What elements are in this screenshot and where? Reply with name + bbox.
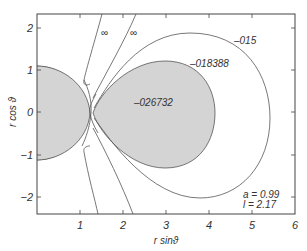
label-018388: –018388 — [189, 58, 229, 69]
label-026732: –026732 — [133, 97, 173, 108]
x-tick-4: 4 — [206, 219, 212, 231]
lobe-026732-fill — [93, 61, 215, 168]
y-tick-0: 0 — [27, 106, 34, 118]
y-axis-title: r cos ϑ — [7, 97, 18, 127]
x-tick-5: 5 — [249, 219, 256, 231]
x-tick-6: 6 — [292, 219, 299, 231]
y-tick-m2: −2 — [20, 191, 33, 203]
param-l: l = 2.17 — [243, 199, 277, 210]
x-tick-2: 2 — [119, 219, 126, 231]
contour-inf-1-lower — [84, 146, 98, 214]
y-tick-m1: −1 — [20, 149, 33, 161]
x-tick-3: 3 — [163, 219, 170, 231]
y-tick-1: 1 — [27, 64, 33, 76]
y-tick-2: 2 — [26, 22, 33, 34]
x-tick-1: 1 — [77, 219, 83, 231]
label-inf-1: ∞ — [101, 27, 108, 38]
label-inf-2: ∞ — [130, 27, 137, 38]
x-axis-title: r sinϑ — [154, 235, 179, 246]
contour-inf-1 — [84, 14, 102, 85]
label-015: –015 — [233, 35, 257, 46]
contour-chart: 1 2 3 4 5 6 2 1 0 −1 −2 r sinϑ r cos ϑ ∞… — [0, 0, 307, 251]
